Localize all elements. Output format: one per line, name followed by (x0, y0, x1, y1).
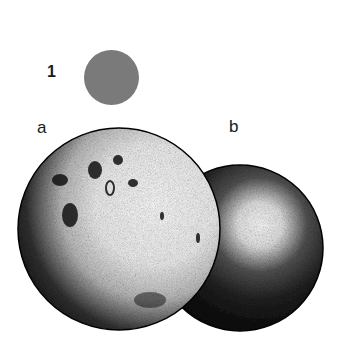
spheres-illustration (0, 0, 341, 352)
sphere-a (18, 128, 220, 330)
